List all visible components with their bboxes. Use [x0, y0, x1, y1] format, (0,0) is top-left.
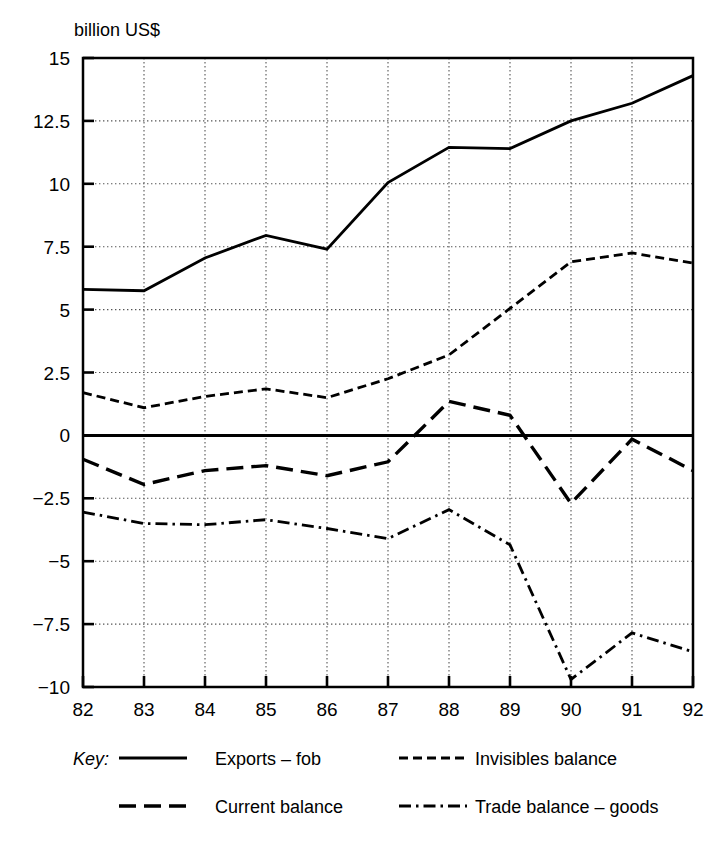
x-axis-tick-label: 86 — [316, 699, 337, 720]
y-axis-tick-label: 7.5 — [44, 237, 70, 258]
x-axis-tick-label: 91 — [621, 699, 642, 720]
x-axis-tick-label: 84 — [194, 699, 216, 720]
y-axis-tick-label: 5 — [59, 300, 70, 321]
y-axis-tick-label: 15 — [49, 48, 70, 69]
y-axis-ticks — [83, 58, 94, 687]
x-axis-tick-label: 92 — [682, 699, 703, 720]
legend-label-3: Trade balance – goods — [475, 797, 658, 817]
horizontal-gridlines — [83, 121, 693, 624]
y-axis-tick-label: −10 — [38, 677, 70, 698]
x-axis-tick-label: 88 — [438, 699, 459, 720]
series-line-2 — [83, 401, 693, 503]
legend-key-label: Key: — [73, 749, 109, 769]
x-axis-tick-labels: 8283848586878889909192 — [72, 699, 703, 720]
x-axis-tick-label: 83 — [133, 699, 154, 720]
x-axis-tick-label: 87 — [377, 699, 398, 720]
y-axis-tick-label: −2.5 — [32, 488, 70, 509]
y-axis-unit-label: billion US$ — [74, 20, 160, 41]
x-axis-tick-label: 82 — [72, 699, 93, 720]
chart-legend: Key:Exports – fobInvisibles balanceCurre… — [73, 749, 658, 817]
legend-label-2: Current balance — [215, 797, 343, 817]
x-axis-tick-label: 89 — [499, 699, 520, 720]
y-axis-tick-label: 2.5 — [44, 363, 70, 384]
x-axis-tick-label: 90 — [560, 699, 581, 720]
y-axis-tick-label: 0 — [59, 425, 70, 446]
y-axis-tick-label: 12.5 — [33, 111, 70, 132]
legend-label-1: Invisibles balance — [475, 749, 617, 769]
y-axis-tick-label: 10 — [49, 174, 70, 195]
y-axis-tick-label: −5 — [48, 551, 70, 572]
y-axis-tick-labels: 1512.5107.552.50−2.5−5−7.5−10 — [32, 48, 70, 698]
x-axis-ticks — [83, 676, 693, 687]
y-axis-tick-label: −7.5 — [32, 614, 70, 635]
legend-label-0: Exports – fob — [215, 749, 321, 769]
x-axis-tick-label: 85 — [255, 699, 276, 720]
chart-figure: billion US$ 1512.5107.552.50−2.5−5−7.5−1… — [0, 0, 727, 854]
chart-canvas: 1512.5107.552.50−2.5−5−7.5−10 8283848586… — [0, 0, 727, 854]
